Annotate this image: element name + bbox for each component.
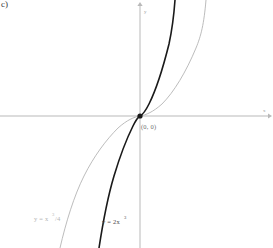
curve-light-label-tail: /4 xyxy=(55,215,61,222)
curve-dark-label: y = 2x xyxy=(102,218,120,225)
origin-point-label: (0, 0) xyxy=(141,123,156,131)
y-axis-label: y xyxy=(144,9,147,14)
figure-container: c) y x (0, 0) y = x 3 /4 y = 2x 3 xyxy=(0,0,273,248)
curve-dark-label-exponent: 3 xyxy=(124,215,127,220)
curve-light-x-cubed-over-4 xyxy=(60,0,206,248)
coordinate-plot: y x (0, 0) y = x 3 /4 y = 2x 3 xyxy=(0,0,273,248)
x-axis-label: x xyxy=(263,108,266,113)
curve-dark-2x-cubed xyxy=(99,0,175,248)
x-axis-arrow-icon xyxy=(268,113,272,118)
curve-dark-label-group: y = 2x 3 xyxy=(102,215,127,226)
y-axis-arrow-icon xyxy=(137,2,142,6)
origin-point-marker xyxy=(137,113,142,118)
curve-light-label: y = x xyxy=(34,215,49,222)
curve-light-label-group: y = x 3 /4 xyxy=(34,212,61,223)
